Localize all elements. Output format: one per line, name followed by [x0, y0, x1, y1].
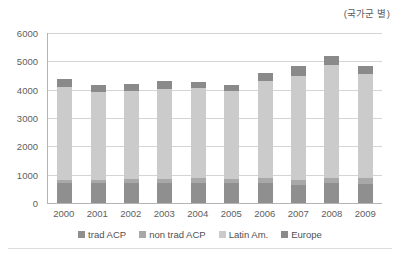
y-tick-label: 2000 — [17, 141, 38, 152]
x-axis: 2000200120022003200420052006200720082009 — [47, 208, 382, 219]
legend-item[interactable]: Europe — [281, 229, 322, 240]
x-tick-label: 2006 — [248, 208, 282, 219]
bar-stack[interactable] — [324, 56, 339, 203]
bar-segment — [291, 185, 306, 203]
bar-slot-2009 — [349, 33, 382, 203]
x-tick-label: 2002 — [114, 208, 148, 219]
x-tick-label: 2008 — [315, 208, 349, 219]
legend-swatch-icon — [219, 231, 226, 238]
bar-segment — [157, 81, 172, 89]
x-tick-label: 2000 — [47, 208, 81, 219]
unit-annotation: (국가군 별) — [344, 6, 390, 20]
bar-slot-2006 — [248, 33, 281, 203]
bar-segment — [358, 74, 373, 178]
stacked-bar-chart: (국가군 별) 0100020003000400050006000 200020… — [0, 0, 400, 263]
bar-stack[interactable] — [157, 81, 172, 203]
bar-stack[interactable] — [358, 66, 373, 203]
y-tick-label: 0 — [33, 198, 38, 209]
bar-stack[interactable] — [91, 85, 106, 203]
y-axis: 0100020003000400050006000 — [0, 28, 44, 203]
bar-stack[interactable] — [258, 73, 273, 203]
x-tick-label: 2001 — [81, 208, 115, 219]
bar-segment — [124, 183, 139, 203]
legend-item[interactable]: Latin Am. — [219, 229, 269, 240]
bar-segment — [258, 183, 273, 203]
bar-segment — [91, 92, 106, 180]
bar-segment — [224, 91, 239, 179]
bar-segment — [191, 88, 206, 178]
bar-segment — [157, 89, 172, 179]
bar-segment — [291, 76, 306, 180]
bar-stack[interactable] — [57, 79, 72, 203]
legend-item[interactable]: non trad ACP — [139, 229, 206, 240]
bar-segment — [224, 183, 239, 203]
x-tick-label: 2005 — [215, 208, 249, 219]
x-tick-label: 2004 — [181, 208, 215, 219]
bar-segment — [258, 73, 273, 81]
y-tick-label: 4000 — [17, 84, 38, 95]
bar-segment — [324, 65, 339, 178]
y-tick-label: 5000 — [17, 56, 38, 67]
y-tick-label: 6000 — [17, 28, 38, 39]
plot-wrapper: 0100020003000400050006000 20002001200220… — [0, 28, 400, 210]
bar-segment — [358, 66, 373, 74]
legend-label: Europe — [291, 229, 322, 240]
legend-swatch-icon — [281, 231, 288, 238]
bar-segment — [124, 84, 139, 91]
bar-stack[interactable] — [124, 84, 139, 203]
bar-segment — [57, 79, 72, 88]
x-tick-label: 2007 — [282, 208, 316, 219]
y-tick-label: 1000 — [17, 169, 38, 180]
x-tick-label: 2003 — [148, 208, 182, 219]
bar-segment — [124, 91, 139, 179]
bar-stack[interactable] — [191, 82, 206, 203]
bar-slot-2005 — [215, 33, 248, 203]
bar-segment — [57, 87, 72, 179]
footer-divider — [8, 248, 392, 249]
bar-slot-2001 — [81, 33, 114, 203]
legend-label: Latin Am. — [229, 229, 269, 240]
bar-slot-2008 — [315, 33, 348, 203]
legend-label: trad ACP — [88, 229, 126, 240]
legend-swatch-icon — [139, 231, 146, 238]
bars-layer — [48, 33, 382, 203]
chart-legend: trad ACPnon trad ACPLatin Am.Europe — [0, 229, 400, 240]
y-tick-label: 3000 — [17, 113, 38, 124]
bar-segment — [57, 183, 72, 203]
bar-slot-2004 — [182, 33, 215, 203]
legend-item[interactable]: trad ACP — [78, 229, 126, 240]
bar-segment — [291, 66, 306, 76]
legend-swatch-icon — [78, 231, 85, 238]
x-tick-label: 2009 — [349, 208, 383, 219]
bar-segment — [91, 183, 106, 203]
bar-slot-2007 — [282, 33, 315, 203]
bar-slot-2003 — [148, 33, 181, 203]
bar-segment — [191, 183, 206, 203]
bar-segment — [324, 183, 339, 203]
bar-segment — [91, 85, 106, 92]
bar-slot-2000 — [48, 33, 81, 203]
bar-slot-2002 — [115, 33, 148, 203]
plot-area — [47, 33, 382, 204]
bar-stack[interactable] — [291, 66, 306, 203]
bar-stack[interactable] — [224, 85, 239, 203]
bar-segment — [157, 183, 172, 203]
bar-segment — [258, 81, 273, 179]
bar-segment — [358, 184, 373, 203]
bar-segment — [324, 56, 339, 65]
legend-label: non trad ACP — [149, 229, 206, 240]
